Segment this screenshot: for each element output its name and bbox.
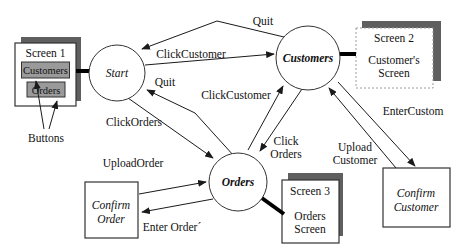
state-transition-diagram: Screen 1 Customers Orders Screen 2 Custo… bbox=[0, 0, 464, 251]
state-orders-label: Orders bbox=[222, 176, 255, 188]
confirm-order-line1: Confirm bbox=[92, 199, 130, 212]
edge-enterorder-orders-to-confirmorder bbox=[142, 199, 213, 212]
screen3-window: Screen 3 Orders Screen bbox=[282, 173, 343, 243]
label-clickorders: ClickOrders bbox=[106, 116, 163, 128]
label-clickcustomer-top: ClickCustomer bbox=[156, 48, 226, 60]
label-click-orders-line1: Click bbox=[274, 135, 299, 147]
screen3-title: Screen 3 bbox=[290, 185, 330, 197]
edge-clickorders-start-to-orders bbox=[128, 98, 213, 158]
screen2-title: Screen 2 bbox=[374, 32, 414, 44]
label-enterorder: Enter Order´ bbox=[143, 221, 202, 233]
label-clickcustomer-mid: ClickCustomer bbox=[201, 89, 271, 101]
confirm-customer-box: Confirm Customer bbox=[383, 168, 450, 227]
diagram-canvas: Screen 1 Customers Orders Screen 2 Custo… bbox=[0, 0, 464, 251]
label-upload-customer-line2: Customer bbox=[333, 154, 378, 166]
label-quit-mid: Quit bbox=[155, 76, 176, 88]
state-customers-label: Customers bbox=[283, 52, 334, 64]
customers-button-label: Customers bbox=[23, 65, 68, 76]
confirm-customer-line2: Customer bbox=[394, 201, 439, 213]
confirm-customer-line1: Confirm bbox=[397, 187, 435, 200]
screen1-title: Screen 1 bbox=[26, 47, 66, 59]
label-quit-top: Quit bbox=[253, 15, 274, 27]
state-start: Start bbox=[89, 45, 145, 101]
screen3-caption-line1: Orders bbox=[294, 210, 326, 222]
screen2-caption-line2: Screen bbox=[378, 67, 410, 79]
label-entercustom: EnterCustom bbox=[383, 105, 444, 117]
link-orders-screen3 bbox=[259, 196, 284, 214]
confirm-order-box: Confirm Order bbox=[85, 182, 138, 238]
label-upload-customer-line1: Upload bbox=[338, 141, 372, 154]
state-customers: Customers bbox=[276, 26, 340, 90]
screen2-window: Screen 2 Customer's Screen bbox=[356, 21, 441, 88]
label-uploadorder: UploadOrder bbox=[103, 157, 164, 170]
confirm-order-line2: Order bbox=[97, 213, 125, 225]
edge-uploadorder-confirmorder-to-orders bbox=[139, 182, 206, 194]
label-click-orders-line2: Orders bbox=[270, 148, 302, 160]
state-orders: Orders bbox=[209, 153, 267, 211]
screen1-window: Screen 1 Customers Orders bbox=[15, 37, 81, 106]
state-start-label: Start bbox=[106, 67, 129, 79]
screen3-caption-line2: Screen bbox=[294, 223, 326, 235]
screen2-caption-line1: Customer's bbox=[368, 54, 420, 66]
label-buttons-note: Buttons bbox=[28, 132, 64, 144]
orders-button-label: Orders bbox=[32, 85, 61, 96]
